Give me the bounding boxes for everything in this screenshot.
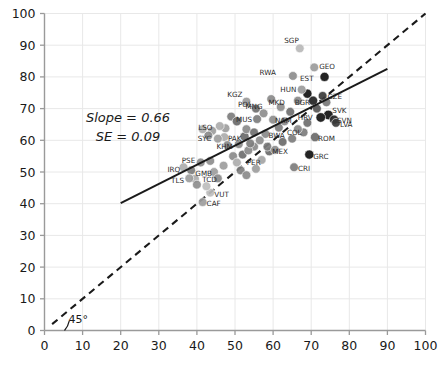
x-tick-label: 30 bbox=[151, 338, 167, 353]
point-label: MNG bbox=[245, 102, 262, 111]
point-label: SGP bbox=[284, 36, 299, 45]
y-tick-label: 90 bbox=[20, 38, 36, 53]
scatter-point bbox=[193, 180, 202, 189]
scatter-point bbox=[253, 115, 262, 124]
scatter-point bbox=[233, 158, 242, 167]
scatter-point bbox=[185, 174, 194, 183]
scatter-point bbox=[255, 136, 264, 145]
scatter-point bbox=[242, 171, 251, 180]
point-label: BGR bbox=[295, 98, 310, 107]
point-label: SVK bbox=[332, 106, 346, 115]
x-tick-label: 50 bbox=[227, 338, 243, 353]
point-label: LVA bbox=[340, 120, 353, 129]
y-tick-label: 80 bbox=[20, 69, 36, 84]
scatter-point bbox=[310, 63, 319, 72]
point-label: TCD bbox=[201, 175, 217, 184]
se-annotation: SE = 0.09 bbox=[96, 129, 161, 144]
point-label: VUT bbox=[214, 190, 229, 199]
scatter-point bbox=[219, 161, 228, 170]
x-tick-label: 70 bbox=[303, 338, 319, 353]
point-label: PER bbox=[247, 158, 261, 167]
regression-fit-line bbox=[121, 69, 388, 203]
y-tick-label: 20 bbox=[20, 260, 36, 275]
x-tick-label: 90 bbox=[379, 338, 395, 353]
point-label: HRV bbox=[298, 113, 313, 122]
point-label: GRC bbox=[313, 152, 328, 161]
x-tick-label: 0 bbox=[41, 338, 49, 353]
y-tick-label: 0 bbox=[28, 323, 36, 338]
point-label: KGZ bbox=[227, 90, 242, 99]
scatter-point bbox=[320, 72, 329, 81]
point-label: PSE bbox=[182, 156, 196, 165]
scatter-point bbox=[316, 113, 326, 123]
x-tick-label: 80 bbox=[341, 338, 357, 353]
y-tick-label: 70 bbox=[20, 101, 36, 116]
x-tick-label: 100 bbox=[414, 338, 438, 353]
x-axis-tick-labels: 0102030405060708090100 bbox=[41, 338, 438, 353]
scatter-point bbox=[289, 72, 298, 81]
x-tick-label: 60 bbox=[265, 338, 281, 353]
point-label: MKD bbox=[268, 98, 285, 107]
point-label: MUS bbox=[236, 115, 252, 124]
y-tick-label: 30 bbox=[20, 228, 36, 243]
point-label: ROM bbox=[318, 134, 335, 143]
scatter-point bbox=[215, 122, 224, 131]
point-label: COL bbox=[287, 128, 302, 137]
point-label: MEX bbox=[272, 147, 288, 156]
scatter-plot-figure: 0102030405060708090100010203040506070809… bbox=[0, 0, 439, 365]
scatter-point bbox=[297, 85, 306, 94]
x-tick-label: 20 bbox=[113, 338, 129, 353]
point-label: LSO bbox=[198, 123, 213, 132]
y-axis-tick-labels: 0102030405060708090100 bbox=[12, 6, 36, 338]
y-tick-label: 60 bbox=[20, 133, 36, 148]
point-label: GEO bbox=[319, 62, 335, 71]
point-label: HUN bbox=[280, 85, 296, 94]
x-tick-label: 10 bbox=[75, 338, 91, 353]
point-label: CAF bbox=[207, 199, 221, 208]
slope-annotation: Slope = 0.66 bbox=[86, 110, 170, 125]
y-tick-label: 10 bbox=[20, 291, 36, 306]
point-label: BWA bbox=[268, 131, 284, 140]
point-label: CRI bbox=[298, 164, 310, 173]
plot-canvas: 0102030405060708090100010203040506070809… bbox=[0, 0, 439, 365]
point-label: RWA bbox=[260, 68, 276, 77]
point-label: SYC bbox=[198, 134, 212, 143]
y-tick-label: 50 bbox=[20, 165, 36, 180]
point-label: EST bbox=[300, 74, 314, 83]
angle-label: 45° bbox=[69, 313, 89, 326]
y-tick-label: 100 bbox=[12, 6, 36, 21]
x-tick-label: 40 bbox=[189, 338, 205, 353]
y-tick-label: 40 bbox=[20, 196, 36, 211]
